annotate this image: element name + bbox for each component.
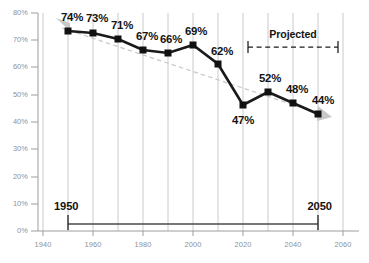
y-tick-label: 30% xyxy=(13,144,28,153)
data-point-2030 xyxy=(265,89,272,96)
y-tick-label: 40% xyxy=(13,117,28,126)
data-point-2020 xyxy=(240,102,247,109)
data-label-2010: 62% xyxy=(211,45,233,57)
x-tick-label: 1960 xyxy=(85,240,102,249)
data-point-2050 xyxy=(315,111,322,118)
chart-container: 80% 70% 60% 50% 40% 30% 20% 10% 0% 1940 … xyxy=(0,0,369,263)
projected-label: Projected xyxy=(269,28,316,40)
y-tick-label: 70% xyxy=(13,35,28,44)
y-tick-label: 50% xyxy=(13,90,28,99)
y-tick-label: 60% xyxy=(13,62,28,71)
data-label-2000: 69% xyxy=(185,25,207,37)
x-tick-label: 1980 xyxy=(135,240,152,249)
y-tick-label: 80% xyxy=(13,8,28,17)
data-label-1960: 73% xyxy=(86,12,108,24)
y-tick-label: 10% xyxy=(13,199,28,208)
data-label-1990: 66% xyxy=(160,33,182,45)
data-label-1970: 71% xyxy=(111,19,133,31)
data-point-1990 xyxy=(165,50,172,57)
data-label-2050: 44% xyxy=(312,94,334,106)
span-start-label: 1950 xyxy=(54,200,79,212)
y-tick-labels: 80% 70% 60% 50% 40% 30% 20% 10% 0% xyxy=(13,8,28,235)
data-label-1950: 74% xyxy=(61,11,83,23)
line-chart: 80% 70% 60% 50% 40% 30% 20% 10% 0% 1940 … xyxy=(0,0,369,263)
data-label-1980: 67% xyxy=(136,30,158,42)
x-tick-label: 2060 xyxy=(335,240,352,249)
y-tick-label: 20% xyxy=(13,172,28,181)
x-tick-label: 1940 xyxy=(35,240,52,249)
x-tick-label: 2020 xyxy=(235,240,252,249)
y-tick-label: 0% xyxy=(17,226,28,235)
data-point-1960 xyxy=(90,30,97,37)
data-label-2040: 48% xyxy=(286,83,308,95)
data-point-1950 xyxy=(65,28,72,35)
span-end-label: 2050 xyxy=(308,200,333,212)
data-point-1980 xyxy=(140,47,147,54)
data-point-2000 xyxy=(190,42,197,49)
data-label-2030: 52% xyxy=(259,72,281,84)
data-point-1970 xyxy=(115,36,122,43)
x-tick-label: 2000 xyxy=(185,240,202,249)
data-label-2020: 47% xyxy=(232,114,254,126)
x-tick-label: 2040 xyxy=(285,240,302,249)
data-point-2010 xyxy=(215,61,222,68)
data-point-2040 xyxy=(290,100,297,107)
